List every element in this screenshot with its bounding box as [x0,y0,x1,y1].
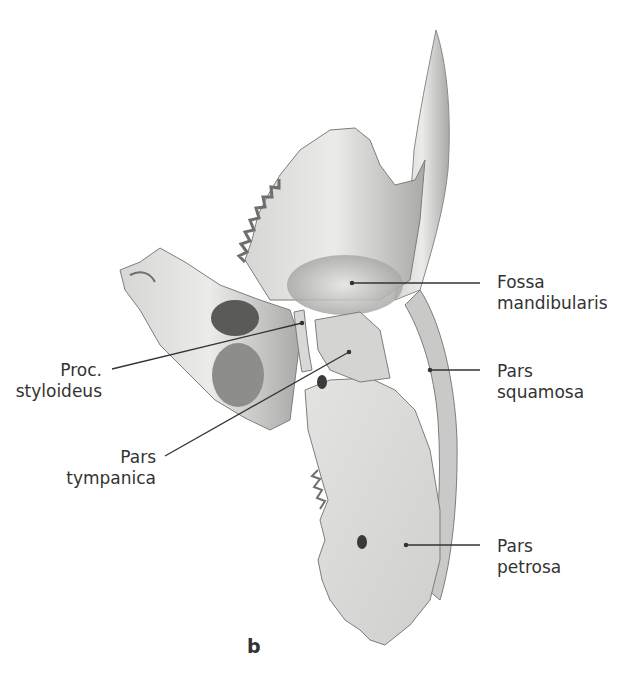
panel-letter: b [247,635,261,657]
foramen [357,535,367,549]
tympanic-part [315,312,390,382]
canal-opening-1 [211,300,259,336]
label-pars-petrosa: Pars petrosa [497,536,561,578]
canal-opening-2 [212,343,264,407]
label-fossa-mandibularis: Fossa mandibularis [497,272,608,314]
fossa-shading [287,255,403,315]
label-proc-styloideus: Proc. styloideus [0,360,102,402]
label-pars-tympanica: Pars tympanica [0,447,156,489]
label-pars-squamosa: Pars squamosa [497,361,584,403]
petrous-part [305,378,440,645]
